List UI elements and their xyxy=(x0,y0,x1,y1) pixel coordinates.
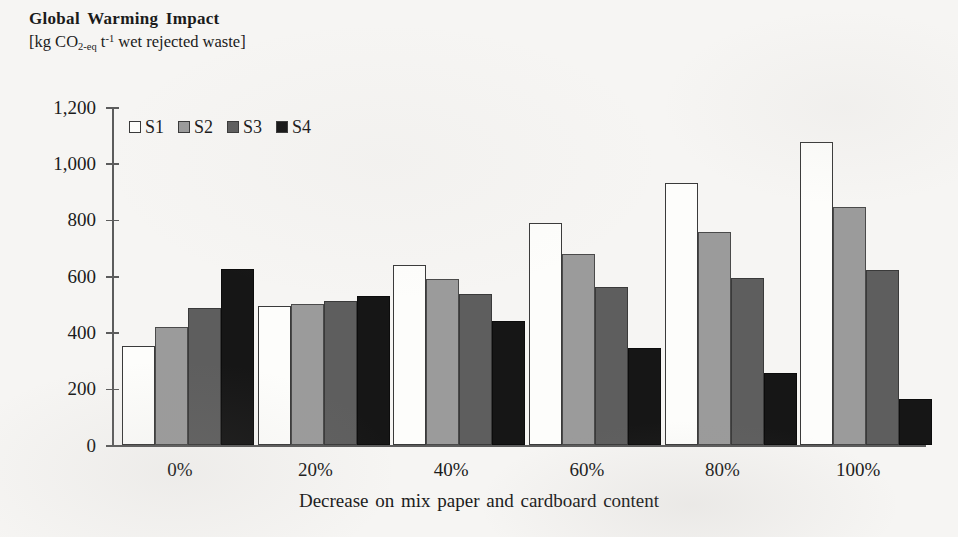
bar-s2-40pct[interactable] xyxy=(426,279,459,445)
subtitle-superscript: -1 xyxy=(105,33,114,44)
y-axis-tick-label: 0 xyxy=(87,434,97,456)
bar-s2-20pct[interactable] xyxy=(291,304,324,445)
subtitle-suffix: wet rejected waste] xyxy=(114,32,245,51)
y-axis-tick-label: 400 xyxy=(68,322,97,344)
y-axis-tick-label: 800 xyxy=(68,209,97,231)
y-axis-tick-label: 1,200 xyxy=(53,96,96,118)
bar-group-40pct xyxy=(383,107,519,445)
bar-group-80pct xyxy=(655,107,791,445)
bar-s3-40pct[interactable] xyxy=(459,294,492,445)
bar-s1-40pct[interactable] xyxy=(393,265,426,445)
bar-s1-60pct[interactable] xyxy=(529,223,562,445)
bar-s1-0pct[interactable] xyxy=(122,346,155,445)
bar-chart: Global Warming Impact [kg CO2-eq t-1 wet… xyxy=(0,0,958,537)
chart-title-block: Global Warming Impact [kg CO2-eq t-1 wet… xyxy=(29,8,246,54)
x-axis-category-label: 0% xyxy=(112,459,248,481)
bar-s1-80pct[interactable] xyxy=(665,183,698,445)
x-axis-category-label: 60% xyxy=(519,459,655,481)
x-axis-category-label: 20% xyxy=(248,459,384,481)
bar-s2-80pct[interactable] xyxy=(698,232,731,446)
x-axis-line xyxy=(112,445,926,447)
y-axis-tick-label: 600 xyxy=(68,265,97,287)
bar-s3-100pct[interactable] xyxy=(866,270,899,445)
subtitle-subscript: 2-eq xyxy=(78,41,97,52)
y-axis-tick-label: 1,000 xyxy=(53,153,96,175)
y-axis-tick: 0 xyxy=(106,445,119,447)
x-axis-category-label: 80% xyxy=(655,459,791,481)
bar-s2-100pct[interactable] xyxy=(833,207,866,445)
bar-s3-60pct[interactable] xyxy=(595,287,628,445)
x-axis-category-label: 40% xyxy=(383,459,519,481)
x-axis-category-label: 100% xyxy=(790,459,926,481)
bar-s3-0pct[interactable] xyxy=(188,308,221,445)
bar-s2-60pct[interactable] xyxy=(562,254,595,445)
bar-s1-100pct[interactable] xyxy=(800,142,833,445)
bar-group-0pct xyxy=(112,107,248,445)
y-axis-tick-label: 200 xyxy=(68,378,97,400)
chart-subtitle: [kg CO2-eq t-1 wet rejected waste] xyxy=(29,31,246,54)
bar-group-20pct xyxy=(248,107,384,445)
subtitle-prefix: [kg CO xyxy=(29,32,78,51)
bar-s1-20pct[interactable] xyxy=(258,306,291,445)
bar-group-60pct xyxy=(519,107,655,445)
bar-s3-20pct[interactable] xyxy=(324,301,357,445)
bar-s2-0pct[interactable] xyxy=(155,327,188,445)
bar-s4-100pct[interactable] xyxy=(899,399,932,445)
plot-area: 1,2001,00080060040020000%20%40%60%80%100… xyxy=(112,107,926,445)
bar-group-100pct xyxy=(790,107,926,445)
chart-title: Global Warming Impact xyxy=(29,8,246,29)
bar-s3-80pct[interactable] xyxy=(731,278,764,445)
x-axis-title: Decrease on mix paper and cardboard cont… xyxy=(0,490,958,512)
